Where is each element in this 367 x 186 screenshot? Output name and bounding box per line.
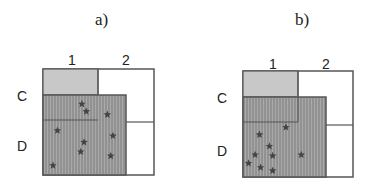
panel-b — [243, 71, 353, 177]
panel-a — [43, 69, 154, 175]
panel-b-hatched-region — [243, 97, 326, 177]
diagram-canvas — [0, 0, 367, 186]
panel-a-cell-c1-gray — [43, 69, 98, 95]
panel-b-cell-c1-gray — [243, 71, 298, 97]
